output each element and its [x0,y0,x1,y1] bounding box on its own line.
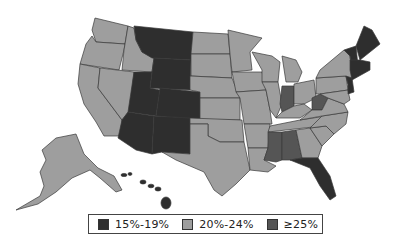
legend-label: 20%-24% [199,218,253,231]
state-nm [152,116,190,154]
state-me [356,26,380,60]
state-mn [228,30,262,72]
legend-item-15-19: 15%-19% [98,218,169,231]
state-co [156,88,200,120]
state-ia [232,72,266,92]
state-hi [121,173,171,209]
state-ar [244,124,270,148]
legend-label: ≥25% [284,218,318,231]
state-nd [191,32,230,54]
state-wy [150,58,191,90]
legend-item-20-24: 20%-24% [182,218,253,231]
state-ak [16,134,122,210]
state-mi [282,56,302,82]
state-ma-ct-ri [350,60,370,80]
state-wa [92,18,128,44]
map-legend: 15%-19% 20%-24% ≥25% [88,214,323,234]
us-choropleth-map [0,0,396,248]
state-mo [236,90,272,124]
state-az [118,112,154,154]
legend-label: 15%-19% [115,218,169,231]
legend-swatch-dark [98,219,109,230]
state-sd [191,54,232,78]
state-ks [200,98,240,120]
legend-swatch-light [182,219,193,230]
legend-item-25-plus: ≥25% [267,218,318,231]
legend-swatch-medium [267,219,278,230]
state-fl [290,158,336,200]
